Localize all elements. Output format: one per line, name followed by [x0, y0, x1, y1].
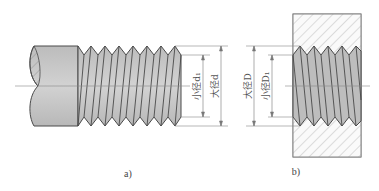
- label-minor-d1: 小径d₁: [191, 72, 202, 99]
- caption-b: b): [292, 166, 300, 178]
- label-minor-D1: 小径D₁: [260, 72, 271, 101]
- thread-diagram: 小径d₁ 大径d: [0, 0, 379, 191]
- label-major-D: 大径D: [242, 73, 253, 98]
- label-major-d: 大径d: [209, 74, 220, 98]
- caption-a: a): [124, 168, 132, 180]
- nut-internal-thread: [285, 14, 370, 157]
- bolt-external-thread: [15, 46, 190, 126]
